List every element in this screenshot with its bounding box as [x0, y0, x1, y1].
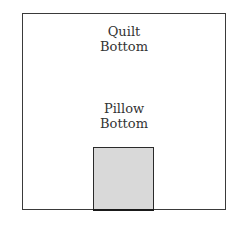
- pillow-label-line1: Pillow: [64, 101, 184, 116]
- pillow-bottom-rectangle: [93, 147, 154, 211]
- pillow-label-line2: Bottom: [64, 116, 184, 131]
- pillow-bottom-label: Pillow Bottom: [64, 101, 184, 131]
- quilt-label-line2: Bottom: [64, 39, 184, 54]
- quilt-bottom-label: Quilt Bottom: [64, 24, 184, 54]
- quilt-label-line1: Quilt: [64, 24, 184, 39]
- pillow-bottom-edge: [93, 209, 154, 211]
